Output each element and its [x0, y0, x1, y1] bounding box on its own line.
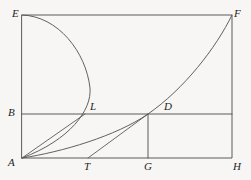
rectangle-outline	[22, 15, 232, 158]
figure-canvas	[0, 0, 251, 180]
point-label-a: A	[8, 157, 15, 168]
arc-e-l-a	[22, 15, 90, 158]
point-label-t: T	[84, 161, 90, 172]
curve-a-d-f	[22, 15, 232, 158]
point-label-f: F	[234, 8, 241, 19]
chord-t-to-d	[88, 114, 148, 158]
point-label-d: D	[164, 101, 172, 112]
point-label-b: B	[8, 107, 15, 118]
point-label-e: E	[12, 8, 19, 19]
geometric-figure: E F B L D A T G H	[0, 0, 251, 180]
point-label-g: G	[144, 161, 152, 172]
point-label-l: L	[90, 101, 96, 112]
point-label-h: H	[233, 161, 241, 172]
